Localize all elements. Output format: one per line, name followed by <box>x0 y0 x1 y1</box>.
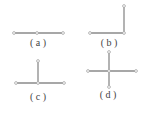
joint-node <box>123 32 126 35</box>
joint-node <box>87 70 90 73</box>
panel-label: ( b ) <box>101 37 118 49</box>
joint-node <box>36 32 39 35</box>
panel-label: ( a ) <box>30 37 46 49</box>
joint-node <box>15 82 18 85</box>
joint-node <box>108 70 111 73</box>
joint-node <box>108 51 111 54</box>
joint-node <box>13 32 16 35</box>
joint-node <box>62 32 65 35</box>
joint-node <box>135 70 138 73</box>
joint-node <box>37 60 40 63</box>
joint-node <box>123 5 126 8</box>
panel-a: ( a ) <box>13 32 65 49</box>
panel-b: ( b ) <box>89 5 126 49</box>
panel-c: ( c ) <box>15 60 66 103</box>
joint-node <box>89 32 92 35</box>
panel-d: ( d ) <box>87 51 138 101</box>
joint-node <box>63 82 66 85</box>
beam-configurations-diagram: ( a ) ( b ) ( c ) ( d ) <box>0 0 150 113</box>
joint-node <box>108 86 111 89</box>
joint-node <box>37 82 40 85</box>
panel-label: ( d ) <box>100 89 117 101</box>
panel-label: ( c ) <box>30 91 46 103</box>
